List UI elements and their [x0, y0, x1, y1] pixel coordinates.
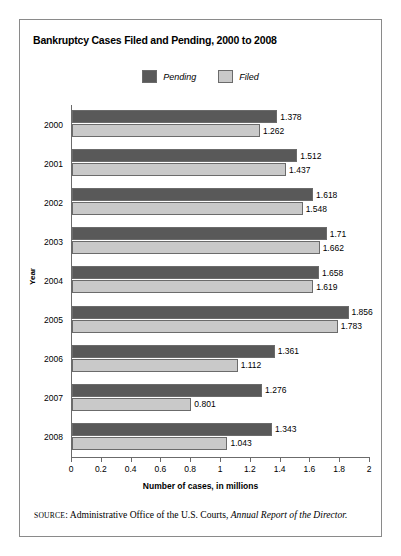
bar-value-label: 1.658 — [322, 268, 343, 278]
x-axis-tick — [131, 457, 132, 462]
bar-value-label: 1.71 — [330, 229, 347, 239]
y-tick-label: 2002 — [44, 198, 63, 208]
bar-pending-2003[interactable]: 1.71 — [72, 227, 327, 240]
bar-value-label: 1.783 — [341, 321, 362, 331]
x-axis-tick — [220, 457, 221, 462]
bar-group: 20041.6581.619 — [71, 261, 369, 300]
plot-area: 20001.3781.26220011.5121.43720021.6181.5… — [71, 105, 369, 457]
y-tick-label: 2005 — [44, 315, 63, 325]
y-tick-label: 2006 — [44, 354, 63, 364]
x-axis-tick-label: 0 — [69, 464, 74, 474]
x-axis-tick — [190, 457, 191, 462]
y-tick-label: 2004 — [44, 276, 63, 286]
y-tick-label: 2008 — [44, 432, 63, 442]
x-axis-tick-label: 0.4 — [125, 464, 137, 474]
bar-filed-2001[interactable]: 1.437 — [72, 163, 286, 176]
bar-filed-2004[interactable]: 1.619 — [72, 280, 313, 293]
bar-value-label: 1.618 — [316, 190, 337, 200]
bar-value-label: 1.662 — [323, 243, 344, 253]
bar-group: 20071.2760.801 — [71, 379, 369, 418]
bar-group: 20081.3431.043 — [71, 418, 369, 457]
bar-pending-2005[interactable]: 1.856 — [72, 306, 349, 319]
y-tick-label: 2003 — [44, 237, 63, 247]
x-axis-tick — [309, 457, 310, 462]
x-axis-tick-label: 1 — [218, 464, 223, 474]
bar-pending-2006[interactable]: 1.361 — [72, 345, 275, 358]
x-axis-tick-label: 2 — [367, 464, 372, 474]
x-axis-tick-label: 1.8 — [333, 464, 345, 474]
x-axis: 00.20.40.60.811.21.41.61.82 — [71, 457, 369, 458]
bar-filed-2008[interactable]: 1.043 — [72, 437, 227, 450]
x-axis-tick-label: 0.6 — [154, 464, 166, 474]
bar-filed-2000[interactable]: 1.262 — [72, 124, 260, 137]
x-axis-tick — [369, 457, 370, 462]
source-text: Administrative Office of the U.S. Courts… — [70, 509, 231, 520]
bar-pending-2004[interactable]: 1.658 — [72, 266, 319, 279]
bar-group: 20021.6181.548 — [71, 183, 369, 222]
bar-value-label: 1.343 — [275, 424, 296, 434]
bar-value-label: 1.361 — [278, 346, 299, 356]
bar-value-label: 1.512 — [300, 151, 321, 161]
bar-value-label: 1.548 — [306, 204, 327, 214]
chart-figure: Bankruptcy Cases Filed and Pending, 2000… — [19, 19, 382, 537]
bar-value-label: 1.112 — [241, 360, 262, 370]
bar-group: 20061.3611.112 — [71, 340, 369, 379]
bar-value-label: 1.619 — [316, 282, 337, 292]
x-axis-tick — [160, 457, 161, 462]
bar-filed-2005[interactable]: 1.783 — [72, 320, 338, 333]
source-publication: Annual Report of the Director. — [231, 509, 348, 520]
bar-pending-2008[interactable]: 1.343 — [72, 423, 272, 436]
y-tick-label: 2007 — [44, 393, 63, 403]
bar-group: 20001.3781.262 — [71, 105, 369, 144]
bar-value-label: 1.437 — [289, 165, 310, 175]
x-axis-tick-label: 1.4 — [274, 464, 286, 474]
x-axis-tick — [250, 457, 251, 462]
bar-value-label: 1.043 — [230, 438, 251, 448]
bar-pending-2007[interactable]: 1.276 — [72, 384, 262, 397]
plot-wrapper: Year 20001.3781.26220011.5121.43720021.6… — [20, 20, 381, 536]
x-axis-tick — [101, 457, 102, 462]
source-note: SOURCE: Administrative Office of the U.S… — [34, 509, 369, 521]
bar-pending-2002[interactable]: 1.618 — [72, 188, 313, 201]
source-label: SOURCE — [34, 511, 65, 520]
bar-value-label: 1.262 — [263, 126, 284, 136]
bar-value-label: 1.378 — [280, 112, 301, 122]
x-axis-tick-label: 1.6 — [303, 464, 315, 474]
bar-value-label: 1.276 — [265, 385, 286, 395]
x-axis-title: Number of cases, in millions — [20, 481, 381, 491]
bar-pending-2001[interactable]: 1.512 — [72, 149, 297, 162]
bar-value-label: 1.856 — [352, 307, 373, 317]
bar-group: 20031.711.662 — [71, 222, 369, 261]
x-axis-tick — [280, 457, 281, 462]
bar-group: 20011.5121.437 — [71, 144, 369, 183]
bar-filed-2006[interactable]: 1.112 — [72, 359, 238, 372]
bar-pending-2000[interactable]: 1.378 — [72, 110, 277, 123]
x-axis-tick-label: 1.2 — [244, 464, 256, 474]
y-axis-title: Year — [28, 268, 37, 285]
bar-filed-2003[interactable]: 1.662 — [72, 241, 320, 254]
x-axis-tick — [339, 457, 340, 462]
y-tick-label: 2000 — [44, 120, 63, 130]
x-axis-tick-label: 0.8 — [184, 464, 196, 474]
bar-filed-2007[interactable]: 0.801 — [72, 398, 191, 411]
x-axis-tick-label: 0.2 — [95, 464, 107, 474]
bar-filed-2002[interactable]: 1.548 — [72, 202, 303, 215]
bar-value-label: 0.801 — [194, 399, 215, 409]
y-tick-label: 2001 — [44, 159, 63, 169]
bar-group: 20051.8561.783 — [71, 301, 369, 340]
x-axis-tick — [71, 457, 72, 462]
